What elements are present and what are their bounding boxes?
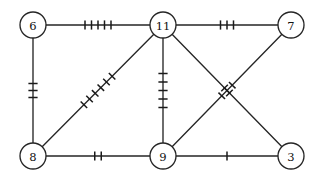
node-label: 8 <box>29 150 36 164</box>
graph-node[interactable]: 9 <box>150 143 176 169</box>
graph-node[interactable]: 3 <box>278 143 304 169</box>
graph-node[interactable]: 7 <box>278 12 304 38</box>
node-label: 6 <box>29 19 36 33</box>
tick-marks-layer <box>28 20 235 160</box>
graph-node[interactable]: 6 <box>20 12 46 38</box>
graph-node[interactable]: 8 <box>20 143 46 169</box>
diagram-canvas: 6117893 <box>0 0 324 180</box>
edges-layer <box>33 25 282 156</box>
graph-edge <box>42 34 154 147</box>
node-label: 9 <box>159 150 166 164</box>
node-label: 3 <box>287 150 294 164</box>
graph-node[interactable]: 11 <box>150 12 176 38</box>
node-label: 7 <box>287 19 294 33</box>
graph-svg: 6117893 <box>0 0 324 180</box>
node-label: 11 <box>156 19 171 33</box>
